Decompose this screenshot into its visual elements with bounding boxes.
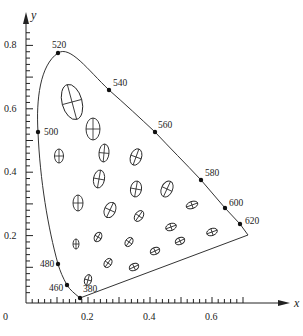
macadam-ellipse [165,222,178,232]
macadam-ellipse [149,246,161,257]
macadam-ellipse [174,236,186,247]
locus-point-540 [107,88,111,92]
y-tick-label: 0.2 [4,230,17,241]
macadam-ellipse [102,200,119,219]
wavelength-label-500: 500 [44,127,59,137]
x-tick-label: 0.4 [143,311,156,322]
y-axis-label: y [30,8,37,22]
wavelength-label-520: 520 [52,40,67,50]
macadam-ellipse [158,179,175,199]
y-tick-label: 0.8 [4,39,17,50]
macadam-ellipse [86,118,100,140]
macadam-ellipse [128,262,140,273]
locus-points: 380460480500520540560580600620 [36,40,260,300]
axes: 0.20.40.6 0.20.40.60.8 x y 0 [3,8,300,322]
macadam-ellipse [128,147,144,167]
y-tick-label: 0.4 [4,166,17,177]
macadam-ellipse [185,200,199,211]
wavelength-label-380: 380 [83,284,98,294]
macadam-ellipse [92,231,103,243]
macadam-ellipse [92,169,106,189]
y-axis-arrow-icon [23,12,29,24]
x-tick-label: 0.2 [81,311,94,322]
x-axis-label: x [293,296,300,310]
wavelength-label-540: 540 [113,78,128,88]
macadam-ellipse [73,239,79,249]
origin-label: 0 [3,311,8,322]
chart-svg: 0.20.40.6 0.20.40.60.8 x y 0 38046048050… [0,0,303,336]
locus-point-600 [223,206,227,210]
locus-point-480 [56,262,60,266]
x-ticks: 0.20.40.6 [32,297,243,322]
locus-point-380 [78,296,82,300]
x-tick-label: 0.6 [205,311,218,322]
chromaticity-chart: 0.20.40.6 0.20.40.60.8 x y 0 38046048050… [0,0,303,336]
locus-point-620 [238,222,242,226]
wavelength-label-620: 620 [245,216,260,226]
locus-point-460 [65,283,69,287]
locus-point-560 [153,130,157,134]
macadam-ellipse [98,144,110,163]
macadam-ellipse [129,180,143,198]
y-ticks: 0.20.40.60.8 [4,33,33,293]
y-tick-label: 0.6 [4,103,17,114]
macadam-ellipse [58,82,87,122]
macadam-ellipse [123,236,134,248]
macadam-ellipse [132,209,145,223]
wavelength-label-480: 480 [40,259,55,269]
locus-point-580 [199,178,203,182]
locus-point-520 [56,51,60,55]
wavelength-label-560: 560 [158,120,173,130]
macadam-ellipse [102,257,113,269]
wavelength-label-580: 580 [205,168,220,178]
locus-point-500 [36,130,40,134]
macadam-ellipse [55,149,64,163]
wavelength-label-600: 600 [229,198,244,208]
x-axis-arrow-icon [278,300,290,306]
wavelength-label-460: 460 [49,283,64,293]
macadam-ellipse [73,195,83,211]
macadam-ellipse [206,227,219,237]
